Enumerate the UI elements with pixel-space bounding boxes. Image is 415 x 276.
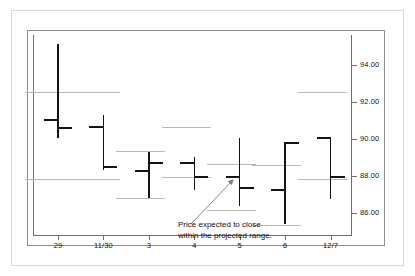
- annotation-text: Price expected to close within the proje…: [178, 219, 272, 241]
- annotation-arrow-icon: [28, 31, 386, 247]
- chart-plot-frame: 94.0092.0090.0088.0086.00 2911/30345612/…: [27, 30, 385, 246]
- screenshot-root: 94.0092.0090.0088.0086.00 2911/30345612/…: [0, 0, 415, 276]
- annotation-line-1: Price expected to close: [178, 219, 272, 230]
- annotation-line-2: within the projected range.: [178, 230, 272, 241]
- chart-plot-area: 94.0092.0090.0088.0086.00 2911/30345612/…: [28, 31, 386, 247]
